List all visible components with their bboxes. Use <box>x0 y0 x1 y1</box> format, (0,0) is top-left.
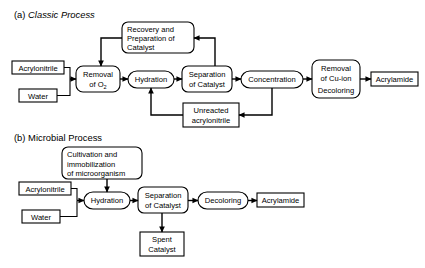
node-microbial-decoloring-label: Decoloring <box>205 196 241 205</box>
node-spent-line2: Catalyst <box>148 245 176 254</box>
node-unreacted-line1: Unreacted <box>193 106 228 115</box>
edge-concentration-to-unreacted <box>239 88 272 115</box>
node-spent-line1: Spent <box>152 235 173 244</box>
node-cultivation-line1: Cultivation and <box>67 150 117 159</box>
edge-acrylonitrile-to-bus <box>64 68 70 80</box>
node-concentration-label: Concentration <box>248 75 295 84</box>
edge-recovery-to-removal-o2 <box>101 38 122 66</box>
node-removal-cu-line3: Decoloring <box>318 86 354 95</box>
node-removal-cu-line2: of Cu-ion <box>321 74 352 83</box>
edge-water-to-bus <box>57 79 70 96</box>
section-marker-a: (a) <box>14 9 25 20</box>
node-classic-acrylonitrile-label: Acrylonitrile <box>18 64 57 73</box>
node-classic-acrylamide-label: Acrylamide <box>376 75 414 84</box>
node-cultivation-line2: immobilization <box>67 160 115 169</box>
node-recovery-line3: Catalyst <box>127 43 155 52</box>
node-microbial-hydration-label: Hydration <box>91 196 124 205</box>
node-classic-separation-line2: of Catalyst <box>189 80 226 89</box>
node-removal-cu-line1: Removal <box>321 64 351 73</box>
section-marker-b: (b) <box>14 132 25 143</box>
node-microbial-acrylamide-label: Acrylamide <box>262 196 300 205</box>
edge-microbial-acrylonitrile-to-bus <box>71 189 77 201</box>
process-flow-diagram: (a) Classic Process Recovery and Prepara… <box>0 0 425 268</box>
node-classic-water-label: Water <box>28 92 48 101</box>
node-recovery-line2: Preparation of <box>127 34 176 43</box>
node-microbial-separation-line2: of Catalyst <box>145 201 182 210</box>
node-cultivation-line3: of microorganism <box>67 169 125 178</box>
node-unreacted-line2: acrylonitrile <box>192 116 230 125</box>
node-classic-hydration-label: Hydration <box>135 75 168 84</box>
node-microbial-acrylonitrile-label: Acrylonitrile <box>25 185 64 194</box>
node-microbial-water-label: Water <box>31 213 51 222</box>
node-removal-o2-line1: Removal <box>83 70 113 79</box>
edge-separation-to-recovery <box>194 38 215 66</box>
node-microbial-separation-line1: Separation <box>145 191 182 200</box>
section-name-classic: Classic Process <box>28 9 95 20</box>
section-name-microbial: Microbial Process <box>28 132 102 143</box>
section-title-classic: (a) Classic Process <box>14 9 95 20</box>
node-classic-separation-line1: Separation <box>189 70 226 79</box>
section-title-microbial: (b) Microbial Process <box>14 132 102 143</box>
node-recovery-line1: Recovery and <box>127 25 174 34</box>
edge-microbial-water-to-bus <box>60 201 77 217</box>
edge-unreacted-to-hydration <box>151 88 183 115</box>
figure-canvas: (a) Classic Process Recovery and Prepara… <box>0 0 425 268</box>
node-removal-o2-subscript: 2 <box>104 84 107 90</box>
